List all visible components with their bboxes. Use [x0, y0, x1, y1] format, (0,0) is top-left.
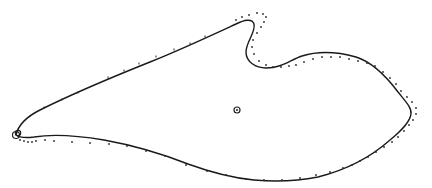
- contour-dot: [164, 155, 166, 157]
- contour-dot: [330, 56, 332, 58]
- contour-dot: [260, 26, 262, 28]
- contour-dot: [248, 14, 250, 16]
- contour-dot: [263, 21, 265, 23]
- contour-dot: [272, 66, 274, 68]
- contour-dot: [126, 145, 128, 147]
- contour-dot: [321, 56, 323, 58]
- contour-dot: [299, 177, 301, 179]
- contour-dot: [108, 143, 110, 145]
- contour-dot: [265, 16, 267, 18]
- contour-dot: [35, 140, 37, 142]
- contour-dot: [89, 142, 91, 144]
- contour-dot: [19, 139, 21, 141]
- contour-dot: [225, 174, 227, 176]
- contour-dot: [403, 130, 405, 132]
- contour-dot: [415, 107, 417, 109]
- contour-dot: [389, 77, 391, 79]
- contour-dot: [397, 136, 399, 138]
- contour-dot: [351, 164, 353, 166]
- contour-dot: [44, 139, 46, 141]
- contour-dot: [265, 64, 267, 66]
- contour-dot: [366, 62, 368, 64]
- contour-dot: [185, 164, 187, 166]
- contour-dot: [395, 83, 397, 85]
- contour-dot: [235, 19, 237, 21]
- contour-dot: [415, 113, 417, 115]
- contour-dot: [342, 167, 344, 169]
- contour-dot: [408, 124, 410, 126]
- contour-dot: [411, 101, 413, 103]
- contour-diagram: [0, 0, 432, 188]
- contour-dot: [258, 60, 260, 62]
- contour-dot: [280, 66, 282, 68]
- contour-dot: [382, 71, 384, 73]
- contour-dot: [71, 141, 73, 143]
- contour-dot: [263, 179, 265, 181]
- diagram-canvas: [0, 0, 432, 188]
- contour-dot: [303, 61, 305, 63]
- contour-dot: [348, 58, 350, 60]
- contour-dot: [391, 141, 393, 143]
- contour-dot: [367, 156, 369, 158]
- contour-dot: [329, 171, 331, 173]
- contour-dot: [252, 39, 254, 41]
- contour-dot: [206, 170, 208, 172]
- contour-dot: [295, 64, 297, 66]
- contour-dot: [27, 141, 29, 143]
- contour-dot: [374, 65, 376, 67]
- contour-dot: [357, 60, 359, 62]
- contour-dot: [412, 119, 414, 121]
- contour-dot: [281, 179, 283, 181]
- contour-dot: [312, 58, 314, 60]
- center-circle-icon: [234, 107, 240, 113]
- contour-dot: [375, 151, 377, 153]
- contour-dot: [256, 12, 258, 14]
- contour-dot: [288, 65, 290, 67]
- contour-dot: [315, 174, 317, 176]
- contour-dot: [253, 53, 255, 55]
- contour-dot: [23, 140, 25, 142]
- contour-dot: [256, 32, 258, 34]
- contour-dot: [31, 141, 33, 143]
- contour-dot: [245, 178, 247, 180]
- contour-dot: [359, 160, 361, 162]
- contour-dot: [262, 13, 264, 15]
- contour-dot: [241, 16, 243, 18]
- dotted-contour: [19, 12, 417, 181]
- contour-dot: [53, 140, 55, 142]
- contour-dot: [145, 150, 147, 152]
- contour-dot: [383, 146, 385, 148]
- contour-dot: [406, 96, 408, 98]
- contour-dot: [339, 56, 341, 58]
- contour-dot: [400, 90, 402, 92]
- solid-contour-line: [16, 20, 411, 181]
- contour-dot: [251, 46, 253, 48]
